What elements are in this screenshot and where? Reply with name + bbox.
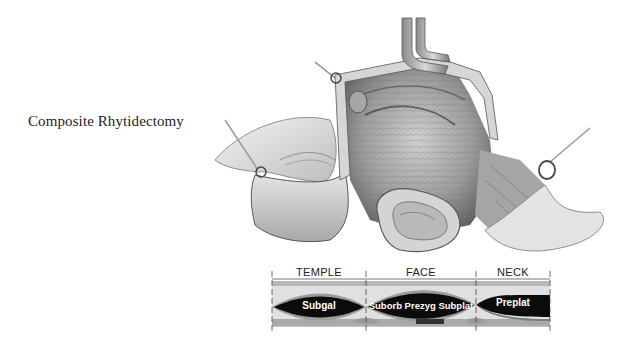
layer-label-subgal: Subgal (272, 300, 366, 311)
layer-label-preplat: Preplat (476, 297, 550, 308)
dissection-plane-legend: TEMPLE FACE NECK Subgal Suborb Prezyg Su… (268, 265, 554, 333)
segment-label-face: FACE (366, 266, 476, 278)
layer-label-suborb-prezyg-subplat: Suborb Prezyg Subplat (366, 300, 476, 311)
surgical-illustration (200, 0, 620, 270)
segment-label-neck: NECK (476, 266, 550, 278)
segment-label-temple: TEMPLE (272, 266, 366, 278)
page-title: Composite Rhytidectomy (28, 113, 184, 130)
retractor (402, 18, 450, 74)
